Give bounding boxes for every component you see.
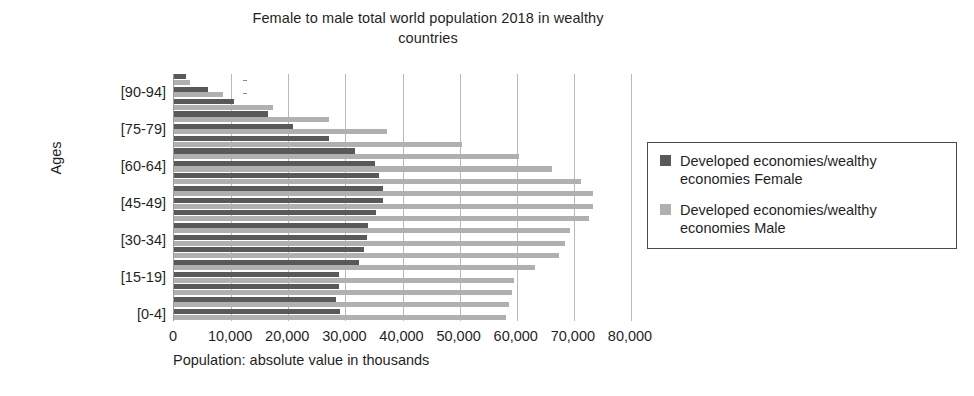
bar-group (174, 210, 631, 222)
bar-group (174, 185, 631, 197)
bar-female[interactable] (174, 260, 359, 265)
bar-group (174, 247, 631, 259)
x-axis-tick-labels: 010,00020,00030,00040,00050,00060,00070,… (0, 328, 974, 346)
bar-female[interactable] (174, 272, 339, 277)
bar-group (174, 222, 631, 234)
y-tick-label: [30-34] (74, 232, 166, 248)
plot-area (173, 74, 631, 321)
bar-male[interactable] (174, 154, 519, 159)
bar-female[interactable] (174, 87, 208, 92)
bar-female[interactable] (174, 99, 234, 104)
bar-male[interactable] (174, 166, 552, 171)
x-tick-label: 50,000 (436, 328, 480, 344)
y-axis-tick-labels: [90-94][75-79][60-64][45-49][30-34][15-1… (74, 74, 166, 321)
x-tick-label: 60,000 (494, 328, 538, 344)
bar-female[interactable] (174, 235, 367, 240)
bar-group (174, 99, 631, 111)
chart-title: Female to male total world population 20… (213, 8, 643, 48)
x-tick-label: 30,000 (322, 328, 366, 344)
bar-group (174, 284, 631, 296)
chart-title-line-2: countries (398, 30, 458, 46)
bar-group (174, 86, 631, 98)
y-tick-label: [45-49] (74, 195, 166, 211)
x-axis-title: Population: absolute value in thousands (173, 352, 429, 368)
bar-female[interactable] (174, 309, 340, 314)
x-tick-label: 20,000 (265, 328, 309, 344)
bar-male[interactable] (174, 105, 273, 110)
bar-male[interactable] (174, 265, 535, 270)
y-tick-label: [90-94] (74, 84, 166, 100)
bar-group (174, 136, 631, 148)
y-tick-label: [0-4] (74, 306, 166, 322)
chart-legend: Developed economies/wealthy economies Fe… (647, 142, 957, 249)
x-tick-label: 40,000 (379, 328, 423, 344)
bar-male[interactable] (174, 117, 329, 122)
bar-male[interactable] (174, 92, 223, 97)
x-tick-label: 0 (169, 328, 177, 344)
legend-label-female-line-1: Developed economies/wealthy (680, 153, 877, 169)
bar-female[interactable] (174, 161, 375, 166)
legend-swatch-female (660, 155, 671, 166)
bar-group (174, 198, 631, 210)
legend-label-male: Developed economies/wealthy economies Ma… (680, 201, 877, 237)
bar-female[interactable] (174, 186, 383, 191)
bar-male[interactable] (174, 204, 593, 209)
bar-male[interactable] (174, 302, 509, 307)
legend-label-male-line-2: economies Male (680, 220, 786, 236)
chart-title-line-1: Female to male total world population 20… (252, 10, 603, 26)
bar-male[interactable] (174, 142, 462, 147)
bar-group (174, 309, 631, 321)
bar-male[interactable] (174, 241, 565, 246)
y-axis-title: Ages (48, 113, 64, 203)
bar-group (174, 111, 631, 123)
bar-group (174, 259, 631, 271)
bar-group (174, 123, 631, 135)
bar-male[interactable] (174, 179, 581, 184)
bar-group (174, 235, 631, 247)
bar-chart: Female to male total world population 20… (0, 0, 974, 396)
legend-label-female-line-2: economies Female (680, 171, 803, 187)
bar-female[interactable] (174, 198, 383, 203)
bar-group (174, 148, 631, 160)
bar-female[interactable] (174, 173, 379, 178)
bar-male[interactable] (174, 228, 570, 233)
bar-male[interactable] (174, 80, 190, 85)
bar-female[interactable] (174, 284, 339, 289)
y-tick-label: [60-64] (74, 158, 166, 174)
bar-male[interactable] (174, 129, 387, 134)
bar-male[interactable] (174, 278, 514, 283)
bar-female[interactable] (174, 210, 376, 215)
bar-group (174, 74, 631, 86)
bar-male[interactable] (174, 253, 559, 258)
legend-swatch-male (660, 204, 671, 215)
bar-female[interactable] (174, 74, 186, 79)
legend-label-male-line-1: Developed economies/wealthy (680, 202, 877, 218)
legend-item-female[interactable]: Developed economies/wealthy economies Fe… (660, 152, 946, 188)
x-tick-label: 70,000 (551, 328, 595, 344)
bar-male[interactable] (174, 191, 593, 196)
bar-group (174, 173, 631, 185)
bar-male[interactable] (174, 290, 512, 295)
y-tick-label: [15-19] (74, 269, 166, 285)
bar-male[interactable] (174, 216, 589, 221)
bar-female[interactable] (174, 297, 336, 302)
bar-female[interactable] (174, 223, 368, 228)
gridline (631, 74, 632, 321)
bar-female[interactable] (174, 111, 268, 116)
bar-group (174, 296, 631, 308)
bar-group (174, 160, 631, 172)
bar-female[interactable] (174, 247, 364, 252)
legend-item-male[interactable]: Developed economies/wealthy economies Ma… (660, 201, 946, 237)
x-tick-label: 80,000 (608, 328, 652, 344)
bar-female[interactable] (174, 136, 329, 141)
bar-female[interactable] (174, 148, 355, 153)
bar-female[interactable] (174, 124, 293, 129)
bar-male[interactable] (174, 315, 506, 320)
y-tick-label: [75-79] (74, 121, 166, 137)
bar-group (174, 272, 631, 284)
legend-label-female: Developed economies/wealthy economies Fe… (680, 152, 877, 188)
x-tick-label: 10,000 (208, 328, 252, 344)
